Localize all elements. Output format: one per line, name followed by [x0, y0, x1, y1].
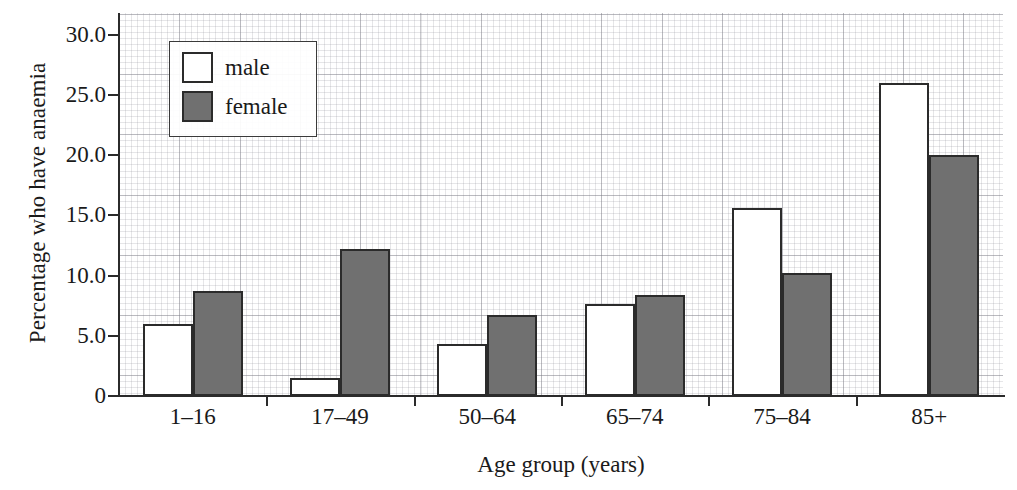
- legend-swatch-female-icon: [182, 91, 213, 122]
- bar-male-1–16: [143, 324, 193, 396]
- bar-female-17–49: [340, 249, 390, 396]
- y-tick-mark: [108, 34, 119, 36]
- y-tick-mark: [108, 94, 119, 96]
- y-tick-label: 0: [0, 383, 108, 409]
- bar-male-17–49: [290, 378, 340, 396]
- y-tick-mark: [108, 335, 119, 337]
- y-tick-label: 10.0: [0, 263, 108, 289]
- legend-label-male: male: [225, 56, 270, 79]
- x-tick-mark: [561, 396, 563, 406]
- y-tick-label: 15.0: [0, 202, 108, 228]
- y-tick-label: 30.0: [0, 22, 108, 48]
- legend: male female: [169, 41, 317, 137]
- bar-male-75–84: [732, 208, 782, 396]
- x-tick-mark: [414, 396, 416, 406]
- y-tick-mark: [108, 214, 119, 216]
- y-tick-label: 5.0: [0, 323, 108, 349]
- legend-item-female: female: [182, 91, 288, 122]
- legend-item-male: male: [182, 52, 270, 83]
- y-tick-label: 20.0: [0, 142, 108, 168]
- bar-male-65–74: [585, 304, 635, 396]
- x-tick-label: 75–84: [753, 404, 811, 430]
- legend-swatch-male-icon: [182, 52, 213, 83]
- bar-male-85+: [879, 83, 929, 396]
- x-tick-label: 17–49: [311, 404, 369, 430]
- legend-label-female: female: [225, 95, 288, 118]
- x-tick-mark: [856, 396, 858, 406]
- x-tick-mark: [708, 396, 710, 406]
- y-tick-mark: [108, 154, 119, 156]
- bar-female-1–16: [193, 291, 243, 396]
- y-tick-mark: [108, 395, 119, 397]
- bar-female-65–74: [635, 295, 685, 396]
- y-axis-line: [118, 13, 120, 396]
- bar-female-85+: [929, 155, 979, 396]
- y-tick-mark: [108, 275, 119, 277]
- bar-chart: Percentage who have anaemia 05.010.015.0…: [0, 0, 1017, 490]
- y-tick-label: 25.0: [0, 82, 108, 108]
- x-tick-label: 85+: [911, 404, 947, 430]
- x-tick-mark: [266, 396, 268, 406]
- x-tick-label: 1–16: [170, 404, 216, 430]
- x-tick-label: 50–64: [459, 404, 517, 430]
- bar-female-75–84: [782, 273, 832, 396]
- bar-female-50–64: [487, 315, 537, 396]
- bar-male-50–64: [437, 344, 487, 396]
- x-tick-label: 65–74: [606, 404, 664, 430]
- x-axis-title: Age group (years): [119, 452, 1003, 478]
